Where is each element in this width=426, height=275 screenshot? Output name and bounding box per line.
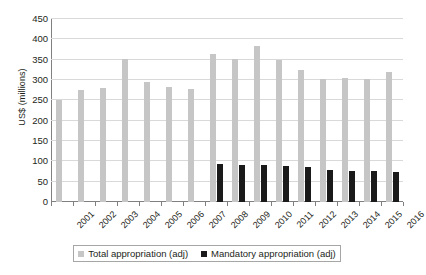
bar-mandatory-appropriation — [371, 171, 377, 202]
legend-swatch-total — [78, 251, 84, 257]
x-axis-tick-label: 2003 — [119, 209, 140, 230]
bar-group — [386, 19, 408, 202]
x-axis-tick-mark — [315, 202, 316, 206]
bar-mandatory-appropriation — [283, 166, 289, 202]
chart-legend: Total appropriation (adj) Mandatory appr… — [73, 245, 341, 262]
legend-item-total: Total appropriation (adj) — [78, 249, 188, 259]
y-axis-tick-label: 100 — [8, 156, 48, 166]
x-axis-tick-label: 2001 — [75, 209, 96, 230]
bar-group — [144, 19, 166, 202]
y-axis-tick-label: 350 — [8, 55, 48, 65]
y-axis-tick-label: 400 — [8, 34, 48, 44]
bar-mandatory-appropriation — [305, 167, 311, 202]
x-axis-tick-label: 2005 — [163, 209, 184, 230]
x-axis-tick-label: 2014 — [361, 209, 382, 230]
bar-total-appropriation — [122, 59, 128, 202]
legend-label-mandatory: Mandatory appropriation (adj) — [211, 249, 336, 259]
x-axis-tick-mark — [205, 202, 206, 206]
bar-group — [210, 19, 232, 202]
bar-total-appropriation — [298, 70, 304, 202]
bar-mandatory-appropriation — [217, 164, 223, 202]
y-axis-tick-label: 0 — [8, 197, 48, 207]
y-axis-tick-label: 450 — [8, 14, 48, 24]
y-axis-tick-label: 50 — [8, 177, 48, 187]
x-axis-tick-label: 2009 — [251, 209, 272, 230]
x-axis-tick-mark — [183, 202, 184, 206]
x-axis-tick-label: 2015 — [383, 209, 404, 230]
x-axis-tick-mark — [249, 202, 250, 206]
bar-group — [78, 19, 100, 202]
bar-total-appropriation — [276, 60, 282, 202]
x-axis-tick-mark — [117, 202, 118, 206]
bar-group — [188, 19, 210, 202]
legend-item-mandatory: Mandatory appropriation (adj) — [201, 249, 336, 259]
x-axis-tick-label: 2006 — [185, 209, 206, 230]
bar-group — [166, 19, 188, 202]
x-axis-tick-label: 2016 — [405, 209, 426, 230]
bar-total-appropriation — [56, 100, 62, 202]
bar-total-appropriation — [364, 79, 370, 202]
x-axis-tick-mark — [359, 202, 360, 206]
bar-group — [364, 19, 386, 202]
x-axis-tick-mark — [73, 202, 74, 206]
x-axis-tick-label: 2008 — [229, 209, 250, 230]
bar-mandatory-appropriation — [349, 171, 355, 202]
plot-area — [51, 19, 403, 202]
bar-total-appropriation — [320, 79, 326, 202]
bar-total-appropriation — [210, 54, 216, 202]
x-axis-tick-mark — [161, 202, 162, 206]
bars-layer — [51, 19, 403, 202]
y-axis-tick-label: 250 — [8, 95, 48, 105]
y-axis-tick-label: 150 — [8, 136, 48, 146]
x-axis-tick-mark — [381, 202, 382, 206]
bar-group — [122, 19, 144, 202]
bar-mandatory-appropriation — [239, 165, 245, 202]
bar-total-appropriation — [144, 82, 150, 202]
bar-mandatory-appropriation — [393, 172, 399, 203]
x-axis-tick-mark — [271, 202, 272, 206]
y-axis-tick-label: 200 — [8, 116, 48, 126]
bar-group — [342, 19, 364, 202]
y-axis-tick-label: 300 — [8, 75, 48, 85]
x-axis-tick-label: 2011 — [295, 209, 316, 230]
bar-group — [320, 19, 342, 202]
bar-group — [254, 19, 276, 202]
bar-total-appropriation — [188, 89, 194, 202]
x-axis-tick-mark — [403, 202, 404, 206]
x-axis-tick-mark — [51, 202, 52, 206]
bar-group — [232, 19, 254, 202]
bar-group — [56, 19, 78, 202]
legend-swatch-mandatory — [201, 251, 207, 257]
bar-group — [298, 19, 320, 202]
bar-total-appropriation — [166, 87, 172, 202]
x-axis-tick-label: 2012 — [317, 209, 338, 230]
bar-total-appropriation — [78, 90, 84, 202]
x-axis-tick-mark — [293, 202, 294, 206]
bar-total-appropriation — [342, 78, 348, 202]
x-axis-tick-label: 2002 — [97, 209, 118, 230]
bar-group — [276, 19, 298, 202]
x-axis-tick-label: 2013 — [339, 209, 360, 230]
x-axis-tick-mark — [337, 202, 338, 206]
legend-label-total: Total appropriation (adj) — [88, 249, 188, 259]
x-axis-tick-label: 2004 — [141, 209, 162, 230]
bar-total-appropriation — [232, 59, 238, 202]
bar-total-appropriation — [100, 88, 106, 202]
x-axis-tick-mark — [227, 202, 228, 206]
x-axis-tick-mark — [139, 202, 140, 206]
x-axis-tick-mark — [95, 202, 96, 206]
bar-total-appropriation — [386, 72, 392, 202]
bar-mandatory-appropriation — [261, 165, 267, 202]
bar-group — [100, 19, 122, 202]
bar-total-appropriation — [254, 46, 260, 202]
bar-mandatory-appropriation — [327, 170, 333, 202]
x-axis-tick-label: 2007 — [207, 209, 228, 230]
x-axis-tick-label: 2010 — [273, 209, 294, 230]
